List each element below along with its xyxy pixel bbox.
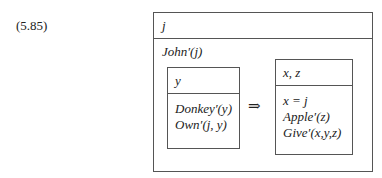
outer-drs-universe: j — [162, 18, 166, 34]
consequent-condition-apple: Apple′(z) — [283, 109, 330, 125]
consequent-condition-give: Give′(x,y,z) — [283, 125, 341, 141]
outer-drs-condition-john: John′(j) — [162, 44, 202, 60]
antecedent-drs-divider — [168, 93, 239, 94]
antecedent-drs-universe: y — [175, 73, 181, 89]
outer-drs-divider — [154, 38, 372, 39]
implication-arrow-icon: ⇒ — [248, 97, 261, 115]
consequent-drs-universe: x, z — [283, 65, 300, 81]
consequent-drs-box: x, z x = j Apple′(z) Give′(x,y,z) — [275, 59, 353, 155]
antecedent-condition-own: Own′(j, y) — [175, 117, 227, 133]
antecedent-drs-box: y Donkey′(y) Own′(j, y) — [167, 67, 240, 149]
antecedent-condition-donkey: Donkey′(y) — [175, 101, 232, 117]
consequent-condition-equality: x = j — [283, 93, 308, 109]
consequent-drs-divider — [276, 85, 352, 86]
equation-number: (5.85) — [16, 18, 47, 34]
